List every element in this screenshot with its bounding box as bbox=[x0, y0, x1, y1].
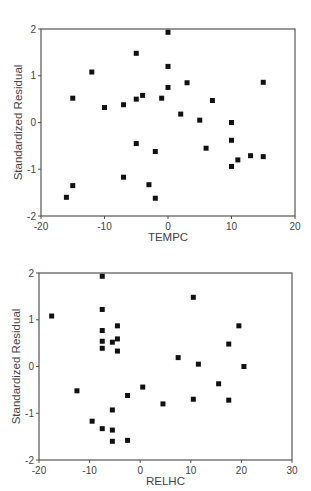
data-point-marker bbox=[90, 419, 95, 424]
data-point-marker bbox=[261, 154, 266, 159]
data-point-marker bbox=[191, 397, 196, 402]
data-point-marker bbox=[226, 398, 231, 403]
data-point-marker bbox=[216, 381, 221, 386]
data-point-marker bbox=[100, 307, 105, 312]
data-point-marker bbox=[140, 385, 145, 390]
y-tick-label: 1 bbox=[30, 70, 36, 81]
x-tick-label: 30 bbox=[286, 465, 298, 476]
data-point-marker bbox=[49, 314, 54, 319]
data-point-marker bbox=[185, 80, 190, 85]
data-point-marker bbox=[229, 164, 234, 169]
data-point-marker bbox=[204, 146, 209, 151]
data-point-marker bbox=[178, 112, 183, 117]
data-point-marker bbox=[153, 196, 158, 201]
data-point-marker bbox=[125, 393, 130, 398]
x-tick-label: -10 bbox=[82, 465, 97, 476]
data-point-marker bbox=[166, 85, 171, 90]
scatter-plot-tempc: -2-1012-20-1001020TEMPCStandardized Resi… bbox=[0, 0, 311, 245]
y-tick-label: -1 bbox=[27, 164, 36, 175]
data-point-marker bbox=[140, 93, 145, 98]
data-point-marker bbox=[102, 105, 107, 110]
data-point-marker bbox=[248, 153, 253, 158]
plot-frame bbox=[41, 29, 295, 216]
y-tick-label: 2 bbox=[30, 24, 36, 35]
data-point-marker bbox=[100, 274, 105, 279]
data-point-marker bbox=[176, 355, 181, 360]
plot-area-relhc: -2-1012-20-100102030RELHCStandardized Re… bbox=[0, 245, 311, 491]
data-point-marker bbox=[121, 102, 126, 107]
data-point-marker bbox=[235, 157, 240, 162]
data-point-marker bbox=[100, 339, 105, 344]
data-point-marker bbox=[226, 342, 231, 347]
data-point-marker bbox=[70, 183, 75, 188]
data-point-marker bbox=[115, 336, 120, 341]
x-axis-label: TEMPC bbox=[148, 231, 188, 243]
data-point-marker bbox=[134, 97, 139, 102]
x-tick-label: -20 bbox=[34, 221, 49, 232]
x-tick-label: 10 bbox=[226, 221, 238, 232]
data-point-marker bbox=[166, 64, 171, 69]
y-axis-label: Standardized Residual bbox=[10, 309, 22, 425]
y-tick-label: 0 bbox=[30, 117, 36, 128]
data-point-marker bbox=[74, 388, 79, 393]
data-point-marker bbox=[166, 30, 171, 35]
data-point-marker bbox=[110, 340, 115, 345]
y-tick-label: -2 bbox=[27, 211, 36, 222]
data-point-marker bbox=[89, 70, 94, 75]
data-point-marker bbox=[197, 118, 202, 123]
data-point-marker bbox=[125, 438, 130, 443]
data-point-marker bbox=[121, 175, 126, 180]
y-axis-label: Standardized Residual bbox=[12, 65, 24, 181]
data-point-marker bbox=[110, 407, 115, 412]
data-point-marker bbox=[229, 138, 234, 143]
data-point-marker bbox=[241, 364, 246, 369]
x-tick-label: 0 bbox=[137, 465, 143, 476]
data-point-marker bbox=[160, 401, 165, 406]
data-point-marker bbox=[210, 98, 215, 103]
data-point-marker bbox=[236, 323, 241, 328]
y-tick-label: -2 bbox=[25, 455, 34, 466]
data-point-marker bbox=[100, 328, 105, 333]
y-tick-label: 2 bbox=[28, 268, 34, 279]
x-tick-label: 20 bbox=[236, 465, 248, 476]
x-tick-label: 20 bbox=[289, 221, 301, 232]
data-point-marker bbox=[110, 439, 115, 444]
data-point-marker bbox=[100, 426, 105, 431]
scatter-plot-relhc: -2-1012-20-100102030RELHCStandardized Re… bbox=[0, 245, 311, 491]
y-tick-label: -1 bbox=[25, 408, 34, 419]
data-point-marker bbox=[159, 96, 164, 101]
data-point-marker bbox=[134, 51, 139, 56]
data-point-marker bbox=[115, 323, 120, 328]
data-point-marker bbox=[64, 195, 69, 200]
data-point-marker bbox=[70, 96, 75, 101]
data-point-marker bbox=[146, 182, 151, 187]
data-point-marker bbox=[115, 349, 120, 354]
x-tick-label: -20 bbox=[32, 465, 47, 476]
y-tick-label: 1 bbox=[28, 314, 34, 325]
plot-area-tempc: -2-1012-20-1001020TEMPCStandardized Resi… bbox=[0, 0, 311, 245]
plot-frame bbox=[39, 273, 292, 460]
data-point-marker bbox=[229, 120, 234, 125]
x-tick-label: -10 bbox=[97, 221, 112, 232]
data-point-marker bbox=[191, 295, 196, 300]
data-point-marker bbox=[196, 362, 201, 367]
x-tick-label: 10 bbox=[185, 465, 197, 476]
y-tick-label: 0 bbox=[28, 361, 34, 372]
data-point-marker bbox=[134, 141, 139, 146]
data-point-marker bbox=[153, 149, 158, 154]
data-point-marker bbox=[261, 80, 266, 85]
data-point-marker bbox=[110, 428, 115, 433]
data-point-marker bbox=[100, 346, 105, 351]
x-axis-label: RELHC bbox=[146, 475, 185, 487]
